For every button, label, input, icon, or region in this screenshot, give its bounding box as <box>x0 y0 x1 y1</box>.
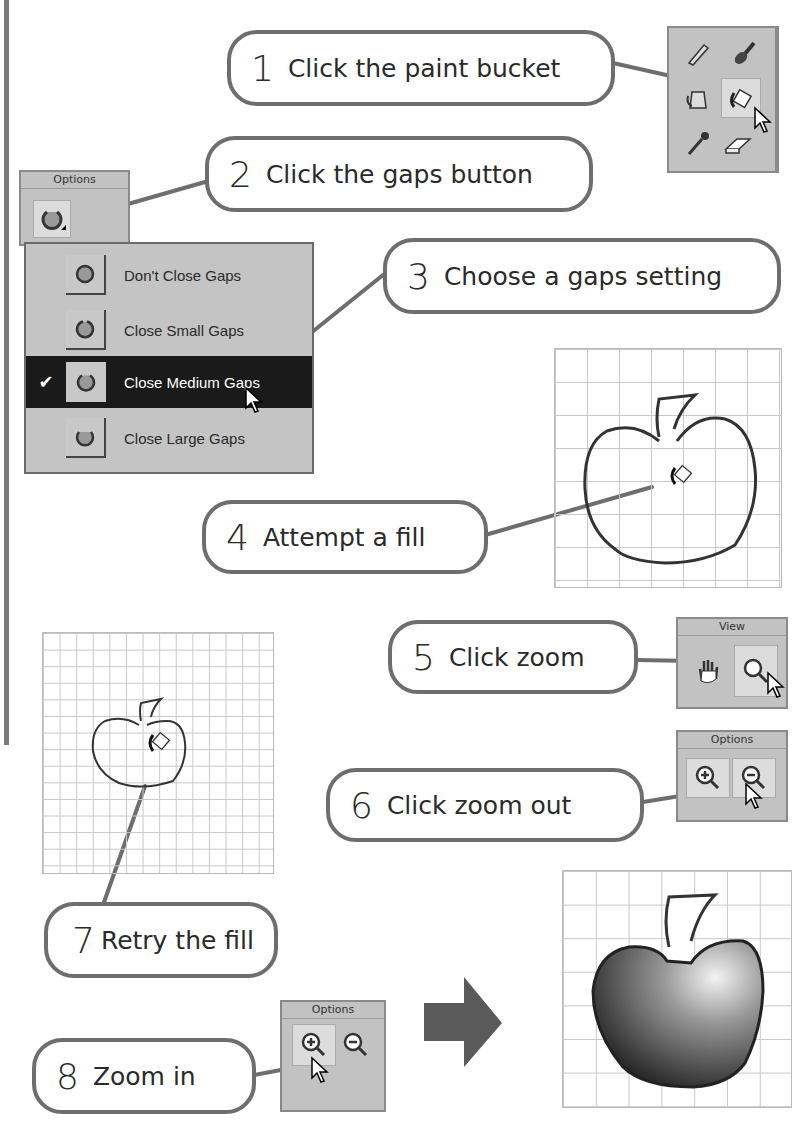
eraser-icon <box>723 129 753 157</box>
menu-item-label: Close Small Gaps <box>124 322 244 339</box>
paint-bucket-icon <box>726 83 756 113</box>
mouse-cursor-icon <box>744 782 766 812</box>
step-text: Retry the fill <box>101 926 254 955</box>
options-panel-gaps: Options <box>19 170 130 246</box>
mouse-cursor-icon <box>766 671 788 701</box>
gaps-button[interactable] <box>33 200 71 238</box>
checkmark-icon: ✔ <box>26 371 66 393</box>
ink-bottle-icon <box>684 84 712 112</box>
step-text: Click zoom out <box>387 791 571 820</box>
canvas-apple-filled[interactable] <box>562 870 792 1108</box>
step-4-callout: 4 Attempt a fill <box>202 500 488 574</box>
zoom-out-icon <box>341 1030 371 1060</box>
eyedropper-tool[interactable] <box>681 126 715 160</box>
hand-icon <box>694 655 724 685</box>
no-gap-icon <box>66 255 106 295</box>
brush-icon <box>730 39 758 67</box>
apple-outline-drawing-small <box>43 633 275 875</box>
step-number: 3 <box>407 256 430 297</box>
zoom-in-icon <box>693 763 723 793</box>
small-gap-icon <box>66 310 106 350</box>
step-5-callout: 5 Click zoom <box>388 620 638 694</box>
medium-gap-icon <box>66 362 106 402</box>
apple-outline-drawing <box>555 349 783 589</box>
gap-size-icon <box>37 204 67 234</box>
menu-item-close-small-gaps[interactable]: Close Small Gaps <box>26 304 312 356</box>
step-number: 5 <box>412 637 435 678</box>
eraser-tool[interactable] <box>721 126 755 160</box>
step-1-callout: 1 Click the paint bucket <box>227 30 615 106</box>
menu-item-close-large-gaps[interactable]: Close Large Gaps <box>26 412 312 464</box>
menu-item-label: Don't Close Gaps <box>124 267 241 284</box>
options-panel-zoom-out: Options <box>676 730 788 822</box>
step-text: Zoom in <box>93 1062 196 1091</box>
mouse-cursor-icon <box>244 386 266 416</box>
pencil-icon <box>684 39 712 67</box>
panel-title: View <box>678 619 786 636</box>
step-7-callout: 7 Retry the fill <box>44 902 278 978</box>
pencil-tool[interactable] <box>681 36 715 70</box>
step-6-callout: 6 Click zoom out <box>326 768 644 842</box>
mouse-cursor-icon <box>310 1056 332 1086</box>
step-number: 4 <box>226 517 249 558</box>
panel-title: Options <box>21 172 128 189</box>
menu-item-close-medium-gaps[interactable]: ✔ Close Medium Gaps <box>26 356 312 408</box>
gaps-dropdown-menu: Don't Close Gaps Close Small Gaps ✔ Clos… <box>24 242 314 474</box>
page-margin-bar <box>4 0 9 745</box>
zoom-out-button[interactable] <box>336 1024 376 1066</box>
step-number: 6 <box>350 785 373 826</box>
menu-item-label: Close Medium Gaps <box>124 374 260 391</box>
mouse-cursor-icon <box>753 106 775 136</box>
tools-panel <box>667 26 779 173</box>
step-text: Click zoom <box>449 643 585 672</box>
apple-filled-drawing <box>563 871 793 1109</box>
eyedropper-icon <box>684 129 712 157</box>
brush-tool[interactable] <box>727 36 761 70</box>
large-gap-icon <box>66 418 106 458</box>
zoom-in-button[interactable] <box>686 758 730 798</box>
options-panel-zoom-in: Options <box>280 1000 386 1112</box>
arrow-right-icon <box>420 975 504 1069</box>
step-3-callout: 3 Choose a gaps setting <box>383 238 781 314</box>
step-number: 2 <box>229 154 252 195</box>
menu-item-label: Close Large Gaps <box>124 430 245 447</box>
panel-title: Options <box>678 732 786 749</box>
step-2-callout: 2 Click the gaps button <box>205 136 593 212</box>
hand-tool[interactable] <box>688 649 730 691</box>
step-text: Click the gaps button <box>266 160 533 189</box>
step-text: Choose a gaps setting <box>444 262 722 291</box>
step-text: Click the paint bucket <box>288 54 560 83</box>
canvas-apple-zoomed-out[interactable] <box>42 632 274 874</box>
step-number: 8 <box>56 1056 79 1097</box>
view-panel: View <box>676 617 788 709</box>
step-number: 7 <box>72 920 95 961</box>
ink-bottle-tool[interactable] <box>681 81 715 115</box>
canvas-apple-outline[interactable] <box>554 348 782 588</box>
panel-title: Options <box>282 1002 384 1019</box>
menu-item-dont-close-gaps[interactable]: Don't Close Gaps <box>26 249 312 301</box>
step-8-callout: 8 Zoom in <box>32 1038 256 1114</box>
step-number: 1 <box>251 48 274 89</box>
step-text: Attempt a fill <box>263 523 426 552</box>
